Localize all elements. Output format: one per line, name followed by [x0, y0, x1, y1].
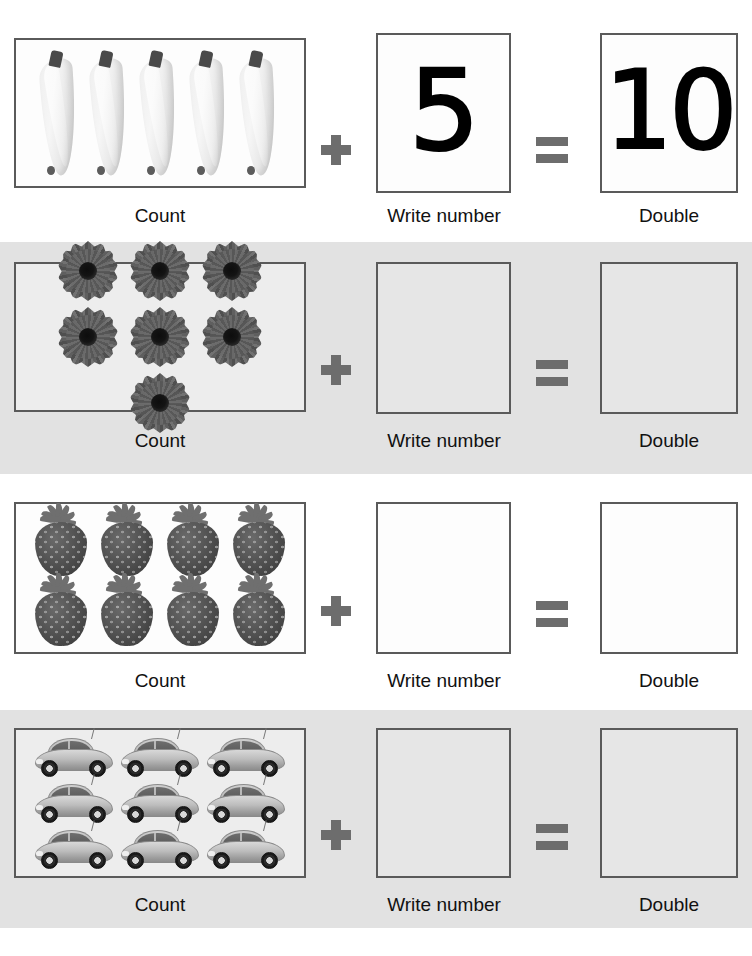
strawberry-icon: [228, 578, 290, 648]
car-group: [16, 730, 304, 876]
flower-icon: [200, 239, 264, 303]
banana-group: [16, 40, 304, 186]
row-strawberries: Count Write number Double: [0, 474, 752, 710]
label-write-number-cars: Write number: [363, 894, 525, 916]
double-box-bananas[interactable]: 10: [600, 33, 738, 193]
flower-group: [16, 264, 304, 410]
flower-icon: [200, 305, 264, 369]
write-number-box-flowers[interactable]: [376, 262, 511, 414]
count-box-flowers: [14, 262, 306, 412]
banana-icon: [88, 49, 132, 177]
strawberry-icon: [162, 578, 224, 648]
strawberry-icon: [96, 578, 158, 648]
equals-operator-icon: [536, 824, 568, 850]
label-write-number-strawberries: Write number: [363, 670, 525, 692]
banana-icon: [238, 49, 282, 177]
car-icon: [121, 737, 199, 777]
label-count-strawberries: Count: [80, 670, 240, 692]
strawberry-icon: [96, 508, 158, 578]
label-double-flowers: Double: [600, 430, 738, 452]
double-box-flowers[interactable]: [600, 262, 738, 414]
double-box-strawberries[interactable]: [600, 502, 738, 654]
written-number-value: 5: [409, 60, 478, 161]
strawberry-icon: [228, 508, 290, 578]
label-double-strawberries: Double: [600, 670, 738, 692]
banana-icon: [38, 49, 82, 177]
flower-icon: [128, 371, 192, 435]
label-double-bananas: Double: [600, 205, 738, 227]
banana-icon: [188, 49, 232, 177]
flower-icon: [128, 305, 192, 369]
label-count-cars: Count: [80, 894, 240, 916]
flower-icon: [128, 239, 192, 303]
double-box-cars[interactable]: [600, 728, 738, 878]
label-count-flowers: Count: [80, 430, 240, 452]
write-number-box-cars[interactable]: [376, 728, 511, 878]
strawberry-group: [16, 504, 304, 652]
banana-icon: [138, 49, 182, 177]
row-cars: Count Write number Double: [0, 710, 752, 928]
row-flowers: Count Write number Double: [0, 242, 752, 474]
car-icon: [35, 783, 113, 823]
equals-operator-icon: [536, 137, 568, 163]
count-box-cars: [14, 728, 306, 878]
car-icon: [35, 829, 113, 869]
plus-operator-icon: [321, 355, 351, 385]
label-double-cars: Double: [600, 894, 738, 916]
label-write-number-bananas: Write number: [363, 205, 525, 227]
count-box-strawberries: [14, 502, 306, 654]
equals-operator-icon: [536, 360, 568, 386]
strawberry-icon: [30, 508, 92, 578]
row-bananas: 5 10 Count Write number Double: [0, 0, 752, 242]
plus-operator-icon: [321, 820, 351, 850]
strawberry-icon: [162, 508, 224, 578]
count-box-bananas: [14, 38, 306, 188]
car-icon: [207, 829, 285, 869]
equals-operator-icon: [536, 601, 568, 627]
car-icon: [207, 737, 285, 777]
strawberry-icon: [30, 578, 92, 648]
plus-operator-icon: [321, 596, 351, 626]
plus-operator-icon: [321, 135, 351, 165]
write-number-box-strawberries[interactable]: [376, 502, 511, 654]
flower-icon: [56, 239, 120, 303]
label-write-number-flowers: Write number: [363, 430, 525, 452]
car-icon: [121, 829, 199, 869]
write-number-box-bananas[interactable]: 5: [376, 33, 511, 193]
car-icon: [207, 783, 285, 823]
car-icon: [121, 783, 199, 823]
label-count-bananas: Count: [80, 205, 240, 227]
double-value: 10: [604, 62, 733, 159]
flower-icon: [56, 305, 120, 369]
worksheet-page: 5 10 Count Write number Double: [0, 0, 752, 956]
car-icon: [35, 737, 113, 777]
